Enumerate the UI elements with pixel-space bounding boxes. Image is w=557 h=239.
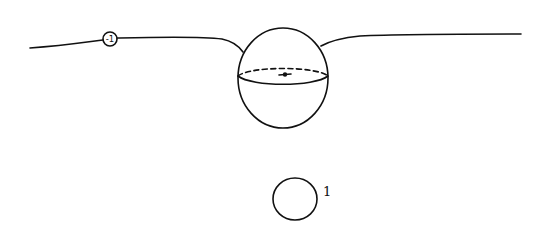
- left-curve-continued: [117, 37, 243, 52]
- sphere-outline: [238, 28, 328, 128]
- right-curve: [321, 34, 521, 46]
- left-curve: [30, 40, 103, 48]
- sphere-center-point: [283, 72, 287, 76]
- small-circle-label: 1: [323, 184, 331, 199]
- sphere-equator-front: [238, 76, 328, 84]
- small-circle: [273, 178, 317, 220]
- diagram-canvas: -1 1: [0, 0, 557, 239]
- charge-marker-label: -1: [106, 34, 114, 44]
